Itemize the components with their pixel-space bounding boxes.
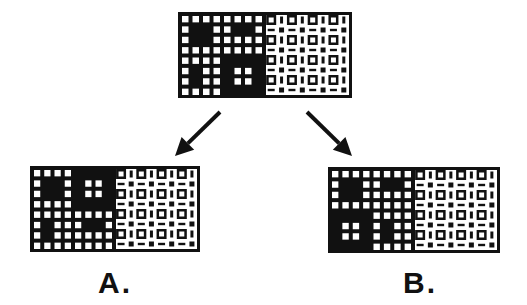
grid-cell — [85, 232, 91, 238]
arrow-shaft — [307, 112, 339, 143]
option-b-stimulus — [328, 167, 500, 253]
grid-cell — [374, 244, 380, 250]
grid-cell — [332, 202, 338, 208]
grid-cell — [34, 212, 40, 218]
grid-cell — [374, 171, 380, 177]
option-a-stimulus — [30, 166, 200, 252]
grid-cell — [106, 243, 112, 249]
grid-cell — [405, 233, 411, 239]
grid-cell — [44, 201, 50, 207]
arrows — [0, 0, 527, 305]
grid-cell — [394, 202, 400, 208]
grid-cell — [374, 233, 380, 239]
grid-cell — [405, 192, 411, 198]
grid-cell — [65, 232, 71, 238]
grid-cell — [106, 212, 112, 218]
grid-cell — [384, 171, 390, 177]
grid-cell — [106, 232, 112, 238]
grid-cell — [405, 171, 411, 177]
grid-cell — [353, 223, 359, 229]
grid-cell — [374, 223, 380, 229]
grid-cell — [65, 201, 71, 207]
grid-cell — [394, 171, 400, 177]
arrow-shaft — [188, 112, 220, 143]
grid-cell — [85, 180, 91, 186]
grid-cell — [65, 170, 71, 176]
grid-cell — [332, 181, 338, 187]
grid-cell — [96, 191, 102, 197]
grid-cell — [374, 192, 380, 198]
grid-cell — [374, 213, 380, 219]
grid-cell — [374, 181, 380, 187]
grid-cell — [106, 222, 112, 228]
grid-cell — [85, 212, 91, 218]
grid-cell — [405, 181, 411, 187]
grid-cell — [75, 212, 81, 218]
grid-cell — [394, 244, 400, 250]
grid-cell — [34, 201, 40, 207]
grid-cell — [394, 213, 400, 219]
grid-cell — [65, 222, 71, 228]
grid-cell — [374, 202, 380, 208]
grid-cell — [96, 212, 102, 218]
grid-cell — [75, 243, 81, 249]
grid-cell — [363, 202, 369, 208]
grid-cell — [75, 222, 81, 228]
grid-cell — [405, 244, 411, 250]
grid-cell — [34, 222, 40, 228]
grid-cell — [363, 181, 369, 187]
grid-cell — [353, 202, 359, 208]
grid-cell — [342, 171, 348, 177]
grid-cell — [55, 170, 61, 176]
grid-cell — [55, 222, 61, 228]
grid-cell — [394, 233, 400, 239]
grid-cell — [65, 191, 71, 197]
grid-cell — [332, 192, 338, 198]
grid-cell — [85, 243, 91, 249]
grid-cell — [342, 202, 348, 208]
grid-cell — [96, 232, 102, 238]
grid-cell — [85, 191, 91, 197]
grid-cell — [353, 171, 359, 177]
grid-cell — [34, 170, 40, 176]
grid-cell — [34, 191, 40, 197]
grid-cell — [363, 171, 369, 177]
grid-cell — [363, 192, 369, 198]
grid-cell — [55, 201, 61, 207]
grid-cell — [394, 223, 400, 229]
grid-cell — [44, 170, 50, 176]
option-a-label: A. — [98, 268, 132, 298]
grid-cell — [342, 233, 348, 239]
grid-cell — [384, 244, 390, 250]
grid-cell — [65, 243, 71, 249]
grid-cell — [55, 212, 61, 218]
grid-cell — [384, 213, 390, 219]
grouping-figure: A. B. — [0, 0, 527, 305]
grid-cell — [75, 232, 81, 238]
grid-cell — [34, 232, 40, 238]
grid-cell — [44, 243, 50, 249]
grid-cell — [55, 243, 61, 249]
grid-cell — [96, 243, 102, 249]
grid-cell — [405, 213, 411, 219]
grid-cell — [65, 180, 71, 186]
grid-cell — [44, 212, 50, 218]
grid-cell — [65, 212, 71, 218]
grid-cell — [332, 171, 338, 177]
grid-cell — [353, 233, 359, 239]
grid-cell — [394, 192, 400, 198]
option-b-label: B. — [403, 268, 437, 298]
grid-cell — [34, 180, 40, 186]
grid-cell — [96, 180, 102, 186]
grid-cell — [34, 243, 40, 249]
grid-cell — [342, 223, 348, 229]
grid-cell — [405, 223, 411, 229]
grid-cell — [384, 192, 390, 198]
grid-cell — [55, 232, 61, 238]
grid-cell — [405, 202, 411, 208]
grid-cell — [384, 202, 390, 208]
